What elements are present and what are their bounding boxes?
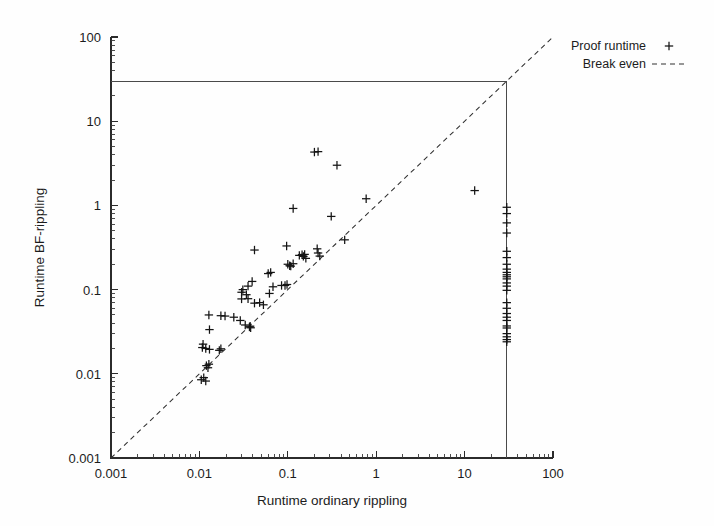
data-point-marker (314, 147, 322, 155)
data-point-marker (503, 209, 511, 217)
y-tick-label: 0.1 (83, 283, 101, 298)
data-point-marker (503, 286, 511, 294)
data-point-marker (313, 245, 321, 253)
legend-layer: Proof runtimeBreak even (571, 39, 686, 71)
y-tick-label: 0.01 (76, 367, 101, 382)
y-tick-label: 10 (87, 114, 101, 129)
data-point-marker (205, 311, 213, 319)
data-point-marker (340, 236, 348, 244)
data-point-marker (470, 186, 478, 194)
data-point-marker (327, 212, 335, 220)
data-point-marker (245, 323, 253, 331)
y-tick-label: 0.001 (68, 451, 101, 466)
scatter-plot: 0.0010.010.11101000.0010.010.1110100Runt… (0, 0, 714, 526)
data-point-marker (259, 301, 267, 309)
data-point-marker (503, 229, 511, 237)
y-tick-label: 1 (94, 198, 101, 213)
data-point-marker (503, 338, 511, 346)
data-point-marker (362, 195, 370, 203)
data-point-marker (215, 346, 223, 354)
x-tick-label: 0.001 (95, 466, 128, 481)
data-point-marker (503, 219, 511, 227)
break-even-line (111, 37, 553, 458)
data-point-marker (250, 246, 258, 254)
reference-lines-layer (111, 37, 553, 458)
data-point-marker (333, 161, 341, 169)
data-point-marker (221, 312, 229, 320)
data-points-layer (197, 147, 511, 385)
legend-label-1: Proof runtime (571, 39, 646, 53)
axis-labels-layer: 0.0010.010.11101000.0010.010.1110100Runt… (32, 30, 564, 508)
x-tick-label: 0.1 (279, 466, 297, 481)
data-point-marker (289, 204, 297, 212)
y-tick-label: 100 (79, 30, 101, 45)
data-point-marker (205, 325, 213, 333)
x-axis-title: Runtime ordinary rippling (257, 493, 407, 508)
y-axis-title: Runtime BF-rippling (32, 188, 47, 307)
x-tick-label: 0.01 (187, 466, 212, 481)
x-tick-label: 1 (373, 466, 380, 481)
legend-label-2: Break even (583, 57, 646, 71)
x-tick-label: 10 (457, 466, 471, 481)
data-point-marker (205, 345, 213, 353)
data-point-marker (244, 294, 252, 302)
figure-root: 0.0010.010.11101000.0010.010.1110100Runt… (0, 0, 714, 526)
data-point-marker (255, 298, 263, 306)
data-point-marker (282, 242, 290, 250)
data-point-marker (248, 277, 256, 285)
x-tick-label: 100 (542, 466, 564, 481)
legend-plus-icon (665, 42, 673, 50)
data-point-marker (217, 345, 225, 353)
